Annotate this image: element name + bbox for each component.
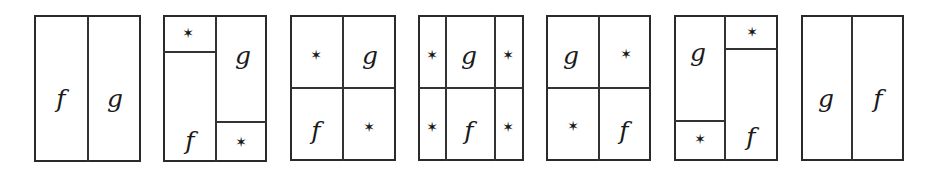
star-icon: ✶ xyxy=(746,25,758,39)
region-label-g: g xyxy=(107,86,123,111)
star-icon: ✶ xyxy=(567,119,579,133)
star-icon: ✶ xyxy=(502,48,514,62)
region-label-f: f xyxy=(873,86,882,111)
horizontal-divider xyxy=(546,87,651,89)
horizontal-divider xyxy=(163,51,216,53)
horizontal-divider xyxy=(418,87,524,89)
region-label-f: f xyxy=(311,118,320,143)
star-icon: ✶ xyxy=(694,132,706,146)
star-icon: ✶ xyxy=(620,47,632,61)
region-label-f: f xyxy=(185,128,194,153)
region-label-g: g xyxy=(818,86,834,111)
region-label-g: g xyxy=(235,43,251,68)
star-icon: ✶ xyxy=(426,120,438,134)
star-icon: ✶ xyxy=(502,120,514,134)
star-icon: ✶ xyxy=(310,48,322,62)
star-icon: ✶ xyxy=(426,48,438,62)
region-label-f: f xyxy=(56,86,65,111)
horizontal-divider xyxy=(290,87,396,89)
vertical-divider xyxy=(851,15,853,161)
star-icon: ✶ xyxy=(363,120,375,134)
region-label-g: g xyxy=(563,43,579,68)
star-icon: ✶ xyxy=(182,26,194,40)
horizontal-divider xyxy=(725,48,778,50)
region-label-f: f xyxy=(619,118,628,143)
horizontal-divider xyxy=(674,120,725,122)
region-label-f: f xyxy=(746,124,755,149)
region-label-g: g xyxy=(690,40,706,65)
horizontal-divider xyxy=(216,121,267,123)
region-label-g: g xyxy=(362,43,378,68)
star-icon: ✶ xyxy=(235,135,247,149)
region-label-g: g xyxy=(461,43,477,68)
region-label-f: f xyxy=(464,118,473,143)
vertical-divider xyxy=(215,15,217,162)
vertical-divider xyxy=(724,15,726,161)
vertical-divider xyxy=(87,15,89,162)
